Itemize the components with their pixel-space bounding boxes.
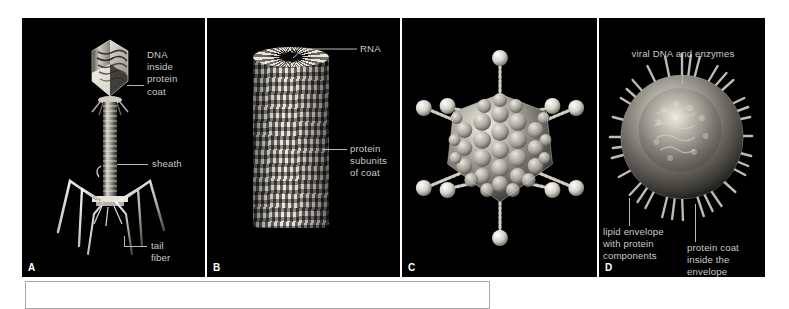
capsid-head	[92, 40, 128, 96]
label-viral-dna-and-enzymes: viral DNA and enzymes	[607, 48, 759, 60]
adenovirus-illustration	[402, 18, 597, 277]
leader-line-rna	[291, 44, 363, 70]
caption-box	[25, 281, 490, 309]
leader-line-tail-fiber	[124, 246, 147, 247]
panel-b-helical-virus: RNA protein subunits of coat B	[205, 18, 400, 277]
panel-letter-c: C	[408, 263, 416, 273]
panel-c-icosahedral-adenovirus: C	[400, 18, 597, 277]
panel-d-enveloped-virus: viral DNA and enzymes lipid envelope wit…	[597, 18, 765, 277]
leader-line-protein-coat	[695, 204, 696, 242]
bacteriophage-illustration	[22, 18, 205, 277]
virus-structures-figure: DNA inside protein coat sheath tail fibe…	[22, 18, 765, 277]
label-dna-inside-protein-coat: DNA inside protein coat	[147, 49, 177, 98]
label-sheath: sheath	[152, 158, 182, 170]
label-protein-subunits-of-coat: protein subunits of coat	[350, 143, 387, 180]
leader-tick-tail-fiber	[124, 236, 125, 247]
label-protein-coat-inside-the-envelope: protein coat inside the envelope	[687, 242, 739, 277]
protein-coat-cylinder	[253, 56, 329, 228]
panel-letter-b: B	[213, 263, 221, 273]
sheath-structure	[97, 102, 117, 198]
panel-letter-a: A	[28, 263, 36, 273]
protein-coat-core	[639, 88, 722, 172]
leader-line-viral-dna	[682, 62, 683, 84]
leader-line-dna	[127, 85, 144, 86]
leader-line-sheath	[117, 164, 148, 165]
helical-virus-illustration	[253, 56, 329, 228]
panel-letter-d: D	[605, 263, 613, 273]
leader-line-protein-subunits	[323, 149, 347, 150]
label-rna: RNA	[360, 43, 381, 55]
panel-a-bacteriophage: DNA inside protein coat sheath tail fibe…	[22, 18, 205, 277]
leader-line-lipid-envelope	[629, 198, 630, 226]
label-tail-fiber: tail fiber	[151, 240, 170, 264]
label-lipid-envelope-with-protein-components: lipid envelope with protein components	[603, 226, 664, 263]
